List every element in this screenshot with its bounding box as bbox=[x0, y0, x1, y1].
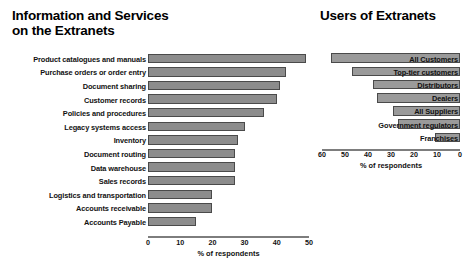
right-chart-x-tick: 50 bbox=[341, 151, 349, 159]
left-chart-x-axis-line bbox=[148, 236, 309, 238]
right-chart-x-tick: 10 bbox=[433, 151, 441, 159]
left-chart-bar bbox=[148, 217, 196, 226]
left-chart-category-label: Policies and procedures bbox=[63, 109, 146, 118]
left-chart-category-label: Document routing bbox=[84, 149, 146, 158]
left-chart-category-label: Customer records bbox=[84, 95, 146, 104]
left-chart-bar bbox=[148, 190, 212, 199]
information-services-chart-panel: Information and Services on the Extranet… bbox=[0, 0, 316, 271]
left-chart-bar-row: Policies and procedures bbox=[0, 106, 316, 120]
left-chart-bar bbox=[148, 67, 286, 76]
right-chart-x-tick: 30 bbox=[387, 151, 395, 159]
right-chart-category-label: Top-tier customers bbox=[393, 67, 458, 76]
left-chart-bar-row: Accounts Payable bbox=[0, 215, 316, 229]
left-chart-category-label: Sales records bbox=[99, 177, 146, 186]
left-chart-category-label: Data warehouse bbox=[91, 163, 146, 172]
left-chart-bar bbox=[148, 149, 235, 158]
left-chart-bar-row: Document sharing bbox=[0, 79, 316, 93]
right-chart-plot-area: All CustomersTop-tier customersDistribut… bbox=[316, 52, 470, 157]
left-chart-plot-area: Product catalogues and manualsPurchase o… bbox=[0, 52, 316, 237]
right-chart-category-label: Government regulators bbox=[378, 120, 458, 129]
left-chart-x-tick: 40 bbox=[273, 238, 281, 247]
right-chart-x-tick: 0 bbox=[458, 151, 462, 159]
left-chart-bar bbox=[148, 94, 277, 103]
right-chart-category-label: Dealers bbox=[432, 94, 458, 103]
left-chart-x-axis-label: % of respondents bbox=[148, 249, 309, 258]
left-chart-bar-row: Accounts receivable bbox=[0, 202, 316, 216]
left-chart-category-label: Accounts receivable bbox=[76, 204, 146, 213]
right-chart-title: Users of Extranets bbox=[320, 8, 470, 23]
left-chart-title: Information and Services on the Extranet… bbox=[12, 8, 302, 38]
left-chart-category-label: Product catalogues and manuals bbox=[33, 54, 146, 63]
left-chart-bar bbox=[148, 135, 238, 144]
right-chart-category-label: Distributors bbox=[417, 80, 458, 89]
left-chart-bar-row: Sales records bbox=[0, 174, 316, 188]
left-chart-x-tick: 50 bbox=[305, 238, 313, 247]
users-of-extranets-chart-panel: Users of Extranets All CustomersTop-tier… bbox=[316, 0, 470, 271]
left-chart-category-label: Logistics and transportation bbox=[49, 190, 146, 199]
right-chart-x-tick: 20 bbox=[410, 151, 418, 159]
left-chart-x-tick: 0 bbox=[146, 238, 150, 247]
right-chart-bar-row: Dealers bbox=[316, 92, 470, 105]
left-chart-bar bbox=[148, 81, 280, 90]
right-chart-bar-row: All Suppliers bbox=[316, 105, 470, 118]
left-chart-category-label: Accounts Payable bbox=[84, 217, 146, 226]
left-chart-bar bbox=[148, 162, 235, 171]
left-chart-bar-row: Document routing bbox=[0, 147, 316, 161]
right-chart-bar-row: All Customers bbox=[316, 52, 470, 65]
left-chart-bar-row: Customer records bbox=[0, 93, 316, 107]
left-chart-bar-row: Logistics and transportation bbox=[0, 188, 316, 202]
right-chart-bar-row: Franchises bbox=[316, 131, 470, 144]
right-chart-x-axis-label: % of respondents bbox=[322, 161, 460, 170]
right-chart-category-label: Franchises bbox=[420, 133, 458, 142]
left-chart-category-label: Purchase orders or order entry bbox=[40, 68, 146, 77]
left-chart-category-label: Inventory bbox=[114, 136, 146, 145]
right-chart-bar-row: Government regulators bbox=[316, 118, 470, 131]
left-chart-x-tick: 20 bbox=[208, 238, 216, 247]
left-chart-bar-row: Inventory bbox=[0, 134, 316, 148]
left-chart-bar-row: Legacy systems access bbox=[0, 120, 316, 134]
right-chart-category-label: All Customers bbox=[409, 54, 458, 63]
left-chart-bar-row: Purchase orders or order entry bbox=[0, 66, 316, 80]
right-chart-x-tick: 60 bbox=[318, 151, 326, 159]
left-chart-bar bbox=[148, 122, 245, 131]
left-chart-x-tick: 30 bbox=[241, 238, 249, 247]
right-chart-bar-row: Top-tier customers bbox=[316, 65, 470, 78]
left-chart-category-label: Legacy systems access bbox=[64, 122, 146, 131]
left-chart-x-tick: 10 bbox=[176, 238, 184, 247]
left-chart-bar bbox=[148, 54, 306, 63]
left-chart-category-label: Document sharing bbox=[83, 81, 146, 90]
left-chart-bar bbox=[148, 203, 212, 212]
left-chart-bar-row: Data warehouse bbox=[0, 161, 316, 175]
left-chart-bar bbox=[148, 176, 235, 185]
left-chart-bar bbox=[148, 108, 264, 117]
right-chart-bar-row: Distributors bbox=[316, 78, 470, 91]
right-chart-category-label: All Suppliers bbox=[414, 107, 458, 116]
left-chart-bar-row: Product catalogues and manuals bbox=[0, 52, 316, 66]
right-chart-x-tick: 40 bbox=[364, 151, 372, 159]
